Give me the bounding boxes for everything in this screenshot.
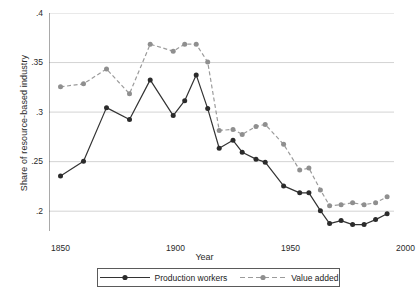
y-tick-label: .2: [17, 206, 43, 216]
data-point: [318, 187, 323, 192]
data-point: [281, 183, 286, 188]
data-point: [240, 150, 245, 155]
data-point: [104, 105, 109, 110]
y-tick-label: .25: [17, 156, 43, 166]
series-line-value-added: [61, 44, 388, 206]
data-point: [81, 159, 86, 164]
x-axis-label: Year: [0, 252, 409, 262]
data-point: [231, 127, 236, 132]
chart-legend: Production workers Value added: [97, 268, 340, 287]
legend-entry-production-workers: Production workers: [99, 272, 228, 283]
legend-entry-value-added: Value added: [239, 272, 338, 283]
data-point: [194, 72, 199, 77]
data-point: [254, 124, 259, 129]
data-point: [281, 142, 286, 147]
data-point: [148, 42, 153, 47]
series-line-production-workers: [61, 75, 388, 225]
data-point: [297, 168, 302, 173]
data-point: [104, 66, 109, 71]
x-tick-label: 2000: [386, 243, 420, 253]
data-point: [385, 194, 390, 199]
legend-label-value-added: Value added: [291, 273, 338, 283]
data-point: [263, 160, 268, 165]
legend-swatch-value-added: [239, 272, 287, 283]
legend-label-production-workers: Production workers: [155, 273, 228, 283]
legend-swatch-production-workers: [99, 272, 151, 283]
data-point: [217, 128, 222, 133]
data-point: [327, 203, 332, 208]
data-point: [254, 157, 259, 162]
plot-area: [49, 13, 394, 231]
chart-canvas: [49, 13, 394, 231]
data-point: [58, 84, 63, 89]
data-point: [350, 222, 355, 227]
data-point: [327, 221, 332, 226]
data-point: [318, 208, 323, 213]
data-point: [205, 106, 210, 111]
data-point: [194, 42, 199, 47]
data-point: [306, 190, 311, 195]
y-tick-label: .4: [17, 8, 43, 18]
data-point: [231, 138, 236, 143]
data-point: [182, 42, 187, 47]
data-point: [306, 166, 311, 171]
data-point: [297, 190, 302, 195]
y-tick-label: .3: [17, 107, 43, 117]
data-point: [240, 132, 245, 137]
data-point: [81, 81, 86, 86]
data-point: [373, 217, 378, 222]
data-point: [127, 117, 132, 122]
data-point: [362, 202, 367, 207]
data-point: [339, 218, 344, 223]
x-tick-label: 1850: [41, 243, 81, 253]
data-point: [373, 200, 378, 205]
data-point: [350, 200, 355, 205]
data-point: [182, 98, 187, 103]
data-point: [263, 122, 268, 127]
data-point: [205, 60, 210, 65]
x-tick-label: 1900: [156, 243, 196, 253]
x-tick-label: 1950: [271, 243, 311, 253]
data-point: [127, 91, 132, 96]
data-point: [148, 77, 153, 82]
data-point: [58, 174, 63, 179]
data-point: [339, 202, 344, 207]
data-point: [217, 146, 222, 151]
data-point: [171, 113, 176, 118]
data-point: [385, 211, 390, 216]
data-point: [362, 222, 367, 227]
y-tick-label: .35: [17, 57, 43, 67]
data-point: [171, 49, 176, 54]
